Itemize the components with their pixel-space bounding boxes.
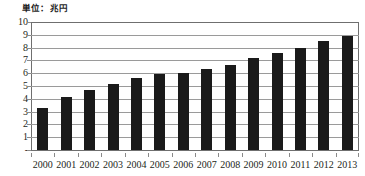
y-tick-label: 3	[6, 107, 28, 117]
bar	[84, 90, 95, 150]
x-tick-label: 2004	[125, 159, 148, 170]
gridline	[31, 112, 359, 113]
x-tick-label: 2006	[172, 159, 195, 170]
gridline	[31, 22, 359, 23]
x-tick-mark	[148, 153, 149, 157]
x-tick-label: 2010	[265, 159, 288, 170]
y-tick-label: 8	[6, 43, 28, 53]
y-tick-label: 7	[6, 55, 28, 65]
x-tick-mark	[218, 153, 219, 157]
bar-chart: 単位：兆円 10987654321- 200020012002200320042…	[0, 0, 365, 176]
x-tick-mark	[54, 153, 55, 157]
bar	[201, 69, 212, 150]
bar	[272, 53, 283, 150]
bar	[318, 41, 329, 150]
x-tick-mark	[265, 153, 266, 157]
x-tick-mark	[312, 153, 313, 157]
y-tick-label: -	[6, 145, 28, 155]
bar	[295, 48, 306, 150]
y-tick-label: 1	[6, 132, 28, 142]
x-tick-label: 2005	[148, 159, 171, 170]
y-tick-label: 4	[6, 94, 28, 104]
y-tick-label: 6	[6, 68, 28, 78]
x-tick-label: 2012	[312, 159, 335, 170]
bar	[37, 108, 48, 150]
bar	[225, 65, 236, 150]
bar	[154, 74, 165, 150]
gridline	[31, 48, 359, 49]
bar	[108, 84, 119, 150]
x-tick-label: 2013	[336, 159, 359, 170]
y-tick-label: 10	[6, 17, 28, 27]
x-tick-label: 2002	[78, 159, 101, 170]
chart-title: 単位：兆円	[22, 1, 68, 13]
bar	[178, 73, 189, 150]
x-tick-label: 2009	[242, 159, 265, 170]
x-tick-mark	[172, 153, 173, 157]
y-tick-label: 2	[6, 119, 28, 129]
x-tick-label: 2001	[54, 159, 77, 170]
gridline	[31, 35, 359, 36]
x-tick-label: 2003	[101, 159, 124, 170]
gridline	[31, 60, 359, 61]
plot-area	[31, 22, 359, 150]
x-tick-mark	[78, 153, 79, 157]
x-tick-mark	[242, 153, 243, 157]
bar	[131, 78, 142, 150]
x-tick-mark	[125, 153, 126, 157]
x-tick-mark	[358, 153, 359, 157]
gridline	[31, 99, 359, 100]
gridline	[31, 124, 359, 125]
gridline	[31, 137, 359, 138]
gridline	[31, 86, 359, 87]
bar	[61, 97, 72, 150]
x-tick-label: 2011	[289, 159, 312, 170]
x-axis-labels: 2000200120022003200420052006200720082009…	[31, 153, 359, 173]
bar	[342, 36, 353, 150]
x-tick-mark	[289, 153, 290, 157]
y-tick-label: 9	[6, 30, 28, 40]
x-tick-label: 2000	[31, 159, 54, 170]
bar	[248, 58, 259, 150]
x-tick-mark	[31, 153, 32, 157]
y-axis-labels: 10987654321-	[0, 0, 28, 176]
gridline	[31, 150, 359, 151]
x-tick-mark	[195, 153, 196, 157]
gridline	[31, 73, 359, 74]
x-tick-mark	[336, 153, 337, 157]
y-tick-label: 5	[6, 81, 28, 91]
x-tick-mark	[101, 153, 102, 157]
x-tick-label: 2008	[218, 159, 241, 170]
x-tick-label: 2007	[195, 159, 218, 170]
